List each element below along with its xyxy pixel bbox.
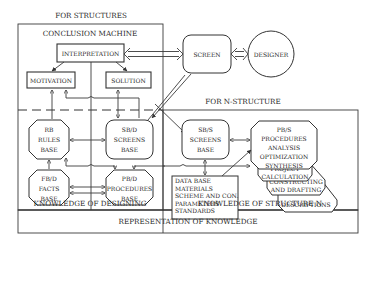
- svg-text:BASE: BASE: [121, 146, 138, 153]
- motivation-box: MOTIVATION: [27, 72, 75, 88]
- svg-text:ANALYSIS: ANALYSIS: [267, 144, 300, 151]
- svg-text:MATERIALS: MATERIALS: [175, 185, 213, 192]
- data-base-box: DATA BASE MATERIALS SCHEME AND CON. PARA…: [172, 176, 238, 219]
- screen-designer-double-arrow: [231, 48, 248, 60]
- svg-text:STANDARDS: STANDARDS: [175, 207, 215, 214]
- svg-text:MOTIVATION: MOTIVATION: [30, 77, 72, 84]
- svg-text:BASE: BASE: [197, 146, 214, 153]
- interpretation-box: INTERPRETATION: [57, 44, 124, 62]
- svg-text:SB/S: SB/S: [198, 126, 213, 133]
- knowledge-of-designing-label: KNOWLEDGE OF DESIGNING: [34, 199, 147, 208]
- pbs-procedures-block: PB/S PROCEDURES ANALYSIS OPTIMIZATION SY…: [251, 121, 317, 169]
- svg-text:AND DRAFTING: AND DRAFTING: [270, 186, 322, 193]
- conclusion-machine-title: CONCLUSION MACHINE: [43, 29, 138, 38]
- svg-text:RULES: RULES: [38, 136, 60, 143]
- svg-text:SCREENS: SCREENS: [190, 136, 221, 143]
- designer-circle: DESIGNER: [248, 31, 294, 77]
- rb-rules-base: RB RULES BASE: [29, 120, 69, 159]
- svg-text:INTERPRETATION: INTERPRETATION: [62, 50, 120, 57]
- solution-box: SOLUTION: [106, 72, 151, 88]
- svg-text:SCREENS: SCREENS: [114, 136, 145, 143]
- knowledge-of-structure-label: KNOWLEDGE OF STRUCTURE N: [198, 199, 322, 208]
- svg-text:DESIGNER: DESIGNER: [254, 51, 289, 58]
- sbd-screens-base: SB/D SCREENS BASE: [106, 120, 153, 159]
- svg-text:PB/D: PB/D: [122, 175, 137, 182]
- svg-text:BASE: BASE: [40, 146, 57, 153]
- svg-text:SYNTHESIS: SYNTHESIS: [265, 162, 303, 169]
- svg-text:SCHEME AND CON.: SCHEME AND CON.: [175, 192, 238, 199]
- svg-text:SCREEN: SCREEN: [193, 51, 220, 58]
- svg-text:SOLUTION: SOLUTION: [111, 77, 145, 84]
- svg-text:CALCULATION: CALCULATION: [261, 173, 308, 180]
- for-n-structure-title: FOR N-STRUCTURE: [205, 97, 281, 106]
- svg-text:FB/D: FB/D: [41, 175, 57, 182]
- interpretation-screen-double-arrow: [124, 48, 183, 60]
- screen-box: SCREEN: [183, 35, 231, 73]
- sbs-screens-base: SB/S SCREENS BASE: [182, 120, 229, 159]
- svg-text:PROCEDURES: PROCEDURES: [261, 135, 306, 142]
- svg-text:RB: RB: [45, 126, 55, 133]
- svg-text:OPTIMIZATION: OPTIMIZATION: [260, 153, 309, 160]
- knowledge-representation-diagram: FOR STRUCTURES CONCLUSION MACHINE INTERP…: [0, 0, 368, 288]
- svg-text:PROCEDURES: PROCEDURES: [107, 185, 152, 192]
- svg-text:PB/S: PB/S: [277, 126, 292, 133]
- svg-text:SB/D: SB/D: [122, 126, 138, 133]
- svg-text:DATA BASE: DATA BASE: [175, 177, 211, 184]
- for-structures-title: FOR STRUCTURES: [55, 11, 127, 20]
- svg-text:FACTS: FACTS: [39, 185, 60, 192]
- representation-of-knowledge-label: REPRESENTATION OF KNOWLEDGE: [119, 217, 258, 226]
